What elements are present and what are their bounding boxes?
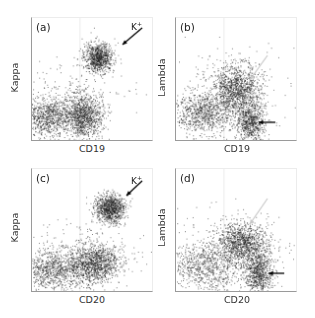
y-axis-label-c: Kappa bbox=[9, 198, 20, 258]
x-axis-label-c: CD20 bbox=[62, 294, 122, 305]
panel-label-c: (c) bbox=[36, 172, 50, 184]
kappa-positive-annotation-a: K+ bbox=[131, 20, 142, 32]
panel-a: (a) bbox=[31, 17, 153, 141]
panel-label-a: (a) bbox=[36, 21, 51, 33]
scatter-plot-a bbox=[32, 18, 152, 140]
panel-label-d: (d) bbox=[180, 172, 195, 184]
kappa-positive-annotation-c: K+ bbox=[131, 174, 142, 186]
panel-label-b: (b) bbox=[180, 21, 195, 33]
panel-b: (b) bbox=[175, 17, 297, 141]
y-axis-label-d: Lambda bbox=[156, 198, 167, 258]
panel-c: (c) bbox=[31, 168, 153, 292]
annotation-sup: + bbox=[137, 174, 142, 181]
panel-d: (d) bbox=[175, 168, 297, 292]
annotation-sup: + bbox=[137, 20, 142, 27]
y-axis-label-b: Lambda bbox=[156, 48, 167, 108]
x-axis-label-b: CD19 bbox=[207, 143, 267, 154]
scatter-plot-b bbox=[176, 18, 296, 140]
scatter-plot-c bbox=[32, 169, 152, 291]
x-axis-label-d: CD20 bbox=[207, 294, 267, 305]
x-axis-label-a: CD19 bbox=[62, 143, 122, 154]
scatter-plot-d bbox=[176, 169, 296, 291]
y-axis-label-a: Kappa bbox=[9, 48, 20, 108]
